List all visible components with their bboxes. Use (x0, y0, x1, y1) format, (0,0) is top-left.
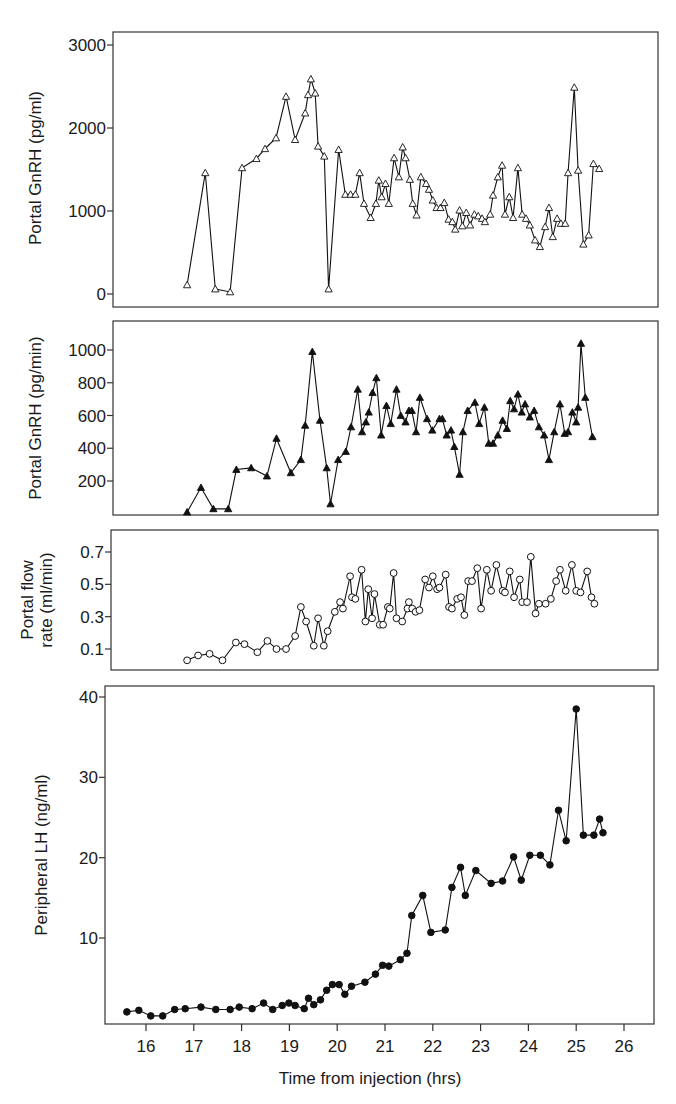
data-point-triangle (577, 340, 584, 346)
data-point-circle (386, 605, 393, 612)
data-point-circle (340, 605, 347, 612)
data-point-circle (206, 650, 213, 657)
data-point-circle (283, 646, 290, 653)
data-point-triangle (494, 173, 501, 179)
data-point-circle (573, 706, 580, 713)
data-point-triangle (556, 400, 563, 406)
data-point-circle (422, 576, 429, 583)
data-point-triangle (238, 164, 245, 170)
data-point-circle (386, 963, 393, 970)
data-point-triangle (510, 214, 517, 220)
data-point-circle (416, 607, 423, 614)
x-tick-label: 20 (328, 1037, 347, 1056)
data-point-circle (264, 638, 271, 645)
data-point-triangle (378, 193, 385, 199)
data-point-circle (469, 578, 476, 585)
data-point-circle (390, 570, 397, 577)
data-point-circle (449, 605, 456, 612)
data-point-circle (510, 854, 517, 861)
x-tick-label: 21 (376, 1037, 395, 1056)
x-tick-label: 25 (567, 1037, 586, 1056)
data-point-triangle (526, 222, 533, 228)
data-point-triangle (327, 500, 334, 506)
data-point-circle (159, 1013, 166, 1020)
data-point-triangle (354, 386, 361, 392)
data-point-triangle (545, 456, 552, 462)
y-tick-label: 0.1 (80, 640, 104, 659)
data-point-triangle (413, 212, 420, 218)
data-point-circle (315, 615, 322, 622)
data-point-circle (547, 595, 554, 602)
data-point-triangle (452, 226, 459, 232)
data-point-triangle (518, 409, 525, 415)
data-series (184, 340, 597, 515)
data-point-circle (301, 1005, 308, 1012)
data-point-triangle (365, 409, 372, 415)
data-point-circle (458, 594, 465, 601)
data-point-circle (499, 878, 506, 885)
y-tick-label: 400 (78, 439, 106, 458)
data-point-circle (462, 892, 469, 899)
data-point-circle (527, 852, 534, 859)
data-point-circle (286, 1000, 293, 1007)
data-point-circle (577, 589, 584, 596)
data-point-triangle (323, 464, 330, 470)
data-point-triangle (580, 241, 587, 247)
y-axis: 0100020003000 (68, 36, 113, 304)
data-point-circle (195, 652, 202, 659)
data-point-circle (406, 599, 413, 606)
data-point-circle (537, 852, 544, 859)
y-tick-label: 3000 (68, 36, 106, 55)
data-point-circle (397, 956, 404, 963)
data-point-circle (273, 646, 280, 653)
data-point-circle (184, 657, 191, 664)
data-point-triangle (312, 90, 319, 96)
y-tick-label: 200 (78, 472, 106, 491)
data-point-circle (329, 981, 336, 988)
data-point-triangle (385, 200, 392, 206)
data-point-circle (124, 1009, 131, 1016)
data-point-triangle (325, 285, 332, 291)
panel-peripheral-lh: 10203040 1617181920212223242526 Peripher… (32, 686, 654, 1088)
data-point-circle (419, 892, 426, 899)
data-point-triangle (545, 204, 552, 210)
data-point-triangle (499, 417, 506, 423)
data-point-triangle (456, 207, 463, 213)
data-point-triangle (481, 404, 488, 410)
y-tick-label: 1000 (68, 341, 106, 360)
y-tick-label: 1000 (68, 202, 106, 221)
data-point-circle (553, 578, 560, 585)
data-point-circle (260, 1000, 267, 1007)
data-point-triangle (506, 193, 513, 199)
data-point-circle (380, 621, 387, 628)
data-point-circle (557, 566, 564, 573)
data-point-circle (365, 586, 372, 593)
y-tick-label: 2000 (68, 119, 106, 138)
data-point-triangle (383, 402, 390, 408)
data-point-circle (488, 587, 495, 594)
data-series (184, 553, 598, 663)
data-series (184, 75, 603, 294)
data-point-circle (337, 599, 344, 606)
data-point-circle (502, 589, 509, 596)
figure: 0100020003000 Portal GnRH (pg/ml) 200400… (0, 0, 676, 1104)
panel-portal-gnrh-secretion: 2004006008001000 Portal GnRH (pg/min) (26, 321, 658, 515)
data-point-triangle (382, 180, 389, 186)
data-point-circle (320, 642, 327, 649)
data-point-triangle (590, 160, 597, 166)
data-point-circle (442, 571, 449, 578)
data-point-triangle (494, 432, 501, 438)
data-point-circle (568, 562, 575, 569)
x-tick-label: 24 (519, 1037, 538, 1056)
y-axis-label: Portal GnRH (pg/min) (26, 336, 45, 499)
data-point-circle (524, 599, 531, 606)
plot-frame (111, 530, 658, 670)
data-point-circle (563, 837, 570, 844)
y-tick-label: 30 (79, 768, 98, 787)
data-point-circle (596, 816, 603, 823)
data-point-triangle (184, 509, 191, 515)
data-point-circle (212, 1006, 219, 1013)
data-point-circle (426, 584, 433, 591)
data-point-circle (369, 615, 376, 622)
data-point-triangle (309, 348, 316, 354)
